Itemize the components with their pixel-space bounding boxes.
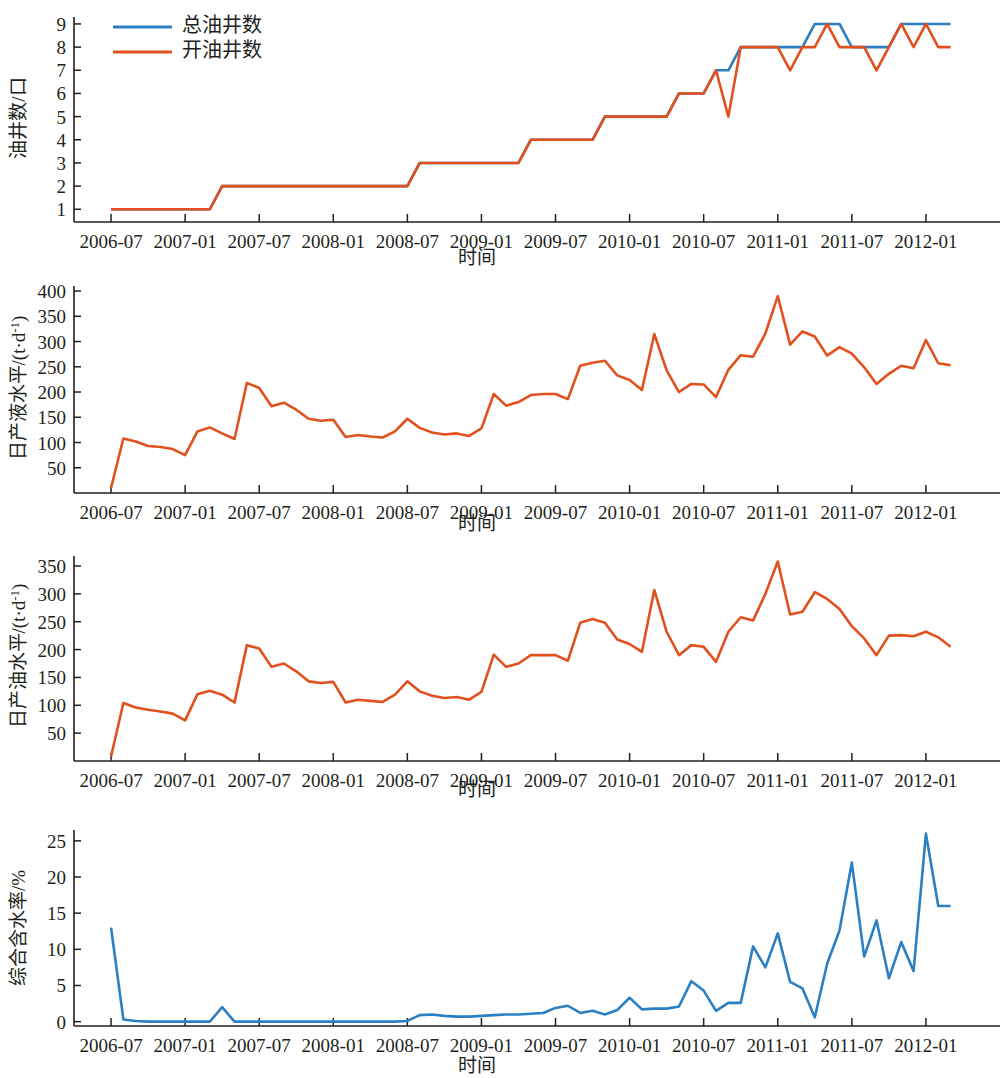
x-axis-title-daily-oil: 时间 xyxy=(458,779,496,800)
y-tick-label-daily-liquid-4: 250 xyxy=(38,357,67,378)
y-axis-title-daily-liquid: 日产液水平/(t·d-1) xyxy=(7,316,30,461)
x-tick-label-daily-liquid-1: 2007-01 xyxy=(153,502,216,523)
y-tick-label-daily-oil-3: 200 xyxy=(38,640,67,661)
y-tick-label-water-cut-2: 10 xyxy=(47,939,66,960)
y-tick-label-daily-liquid-2: 150 xyxy=(38,407,67,428)
panel-daily-oil: 501001502002503003502006-072007-012007-0… xyxy=(0,534,1008,800)
y-tick-label-water-cut-0: 0 xyxy=(57,1012,67,1033)
x-tick-label-daily-oil-6: 2009-07 xyxy=(524,770,587,791)
x-tick-label-daily-oil-10: 2011-07 xyxy=(821,770,884,791)
y-tick-label-daily-oil-4: 250 xyxy=(38,612,67,633)
panel-water-cut: 05101520252006-072007-012007-072008-0120… xyxy=(0,800,1008,1078)
x-tick-label-daily-liquid-7: 2010-01 xyxy=(598,502,661,523)
y-tick-label-daily-oil-6: 350 xyxy=(38,556,67,577)
x-tick-label-well-count-1: 2007-01 xyxy=(153,231,216,252)
x-tick-label-daily-oil-0: 2006-07 xyxy=(79,770,142,791)
x-tick-label-daily-oil-4: 2008-07 xyxy=(376,770,439,791)
y-tick-label-daily-liquid-1: 100 xyxy=(38,433,67,454)
x-tick-label-well-count-8: 2010-07 xyxy=(672,231,735,252)
y-tick-label-daily-oil-5: 300 xyxy=(38,584,67,605)
x-tick-label-water-cut-4: 2008-07 xyxy=(376,1035,439,1056)
x-tick-label-daily-oil-1: 2007-01 xyxy=(153,770,216,791)
x-tick-label-daily-liquid-8: 2010-07 xyxy=(672,502,735,523)
x-tick-label-well-count-11: 2012-01 xyxy=(894,231,957,252)
x-tick-label-daily-liquid-2: 2007-07 xyxy=(228,502,291,523)
x-tick-label-water-cut-8: 2010-07 xyxy=(672,1035,735,1056)
y-tick-label-daily-liquid-3: 200 xyxy=(38,382,67,403)
x-tick-label-water-cut-2: 2007-07 xyxy=(228,1035,291,1056)
x-tick-label-daily-oil-11: 2012-01 xyxy=(894,770,957,791)
x-axis-title-water-cut: 时间 xyxy=(458,1055,496,1076)
y-tick-label-water-cut-1: 5 xyxy=(57,975,67,996)
y-tick-label-well-count-4: 5 xyxy=(57,107,67,128)
chart-water-cut: 05101520252006-072007-012007-072008-0120… xyxy=(0,800,1008,1078)
x-tick-label-daily-oil-7: 2010-01 xyxy=(598,770,661,791)
chart-daily-liquid: 501001502002503003504002006-072007-01200… xyxy=(0,268,1008,534)
x-tick-label-daily-oil-9: 2011-01 xyxy=(746,770,809,791)
x-tick-label-water-cut-6: 2009-07 xyxy=(524,1035,587,1056)
x-tick-label-daily-liquid-3: 2008-01 xyxy=(302,502,365,523)
x-tick-label-well-count-9: 2011-01 xyxy=(746,231,809,252)
chart-daily-oil: 501001502002503003502006-072007-012007-0… xyxy=(0,534,1008,800)
x-tick-label-water-cut-7: 2010-01 xyxy=(598,1035,661,1056)
y-tick-label-well-count-1: 2 xyxy=(57,176,67,197)
x-tick-label-daily-liquid-6: 2009-07 xyxy=(524,502,587,523)
x-tick-label-daily-oil-3: 2008-01 xyxy=(302,770,365,791)
x-tick-label-water-cut-1: 2007-01 xyxy=(153,1035,216,1056)
y-tick-label-water-cut-5: 25 xyxy=(47,831,66,852)
x-tick-label-well-count-10: 2011-07 xyxy=(821,231,884,252)
y-tick-label-water-cut-3: 15 xyxy=(47,903,66,924)
x-tick-label-daily-liquid-4: 2008-07 xyxy=(376,502,439,523)
x-axis-title-well-count: 时间 xyxy=(458,247,496,268)
y-tick-label-daily-oil-2: 150 xyxy=(38,667,67,688)
y-tick-label-well-count-0: 1 xyxy=(57,199,67,220)
x-tick-label-well-count-7: 2010-01 xyxy=(598,231,661,252)
y-tick-label-daily-oil-1: 100 xyxy=(38,695,67,716)
y-axis-title-water-cut: 综合含水率/% xyxy=(8,870,29,986)
figure-oilfield-production-curves: 1234567892006-072007-012007-072008-01200… xyxy=(0,0,1008,1078)
x-tick-label-well-count-3: 2008-01 xyxy=(302,231,365,252)
y-axis-title-daily-oil: 日产油水平/(t·d-1) xyxy=(7,584,30,729)
legend: 总油井数开油井数 xyxy=(113,14,262,61)
panel-daily-liquid: 501001502002503003504002006-072007-01200… xyxy=(0,268,1008,534)
x-tick-label-water-cut-5: 2009-01 xyxy=(450,1035,513,1056)
y-tick-label-daily-liquid-7: 400 xyxy=(38,281,67,302)
x-tick-label-water-cut-9: 2011-01 xyxy=(746,1035,809,1056)
chart-well-count: 1234567892006-072007-012007-072008-01200… xyxy=(0,0,1008,268)
x-tick-label-well-count-2: 2007-07 xyxy=(228,231,291,252)
y-axis-title-well-count: 油井数/口 xyxy=(8,77,29,158)
y-tick-label-well-count-6: 7 xyxy=(57,60,67,81)
x-tick-label-water-cut-0: 2006-07 xyxy=(79,1035,142,1056)
x-tick-label-daily-liquid-9: 2011-01 xyxy=(746,502,809,523)
y-tick-label-water-cut-4: 20 xyxy=(47,867,66,888)
x-tick-label-well-count-0: 2006-07 xyxy=(79,231,142,252)
x-tick-label-daily-liquid-0: 2006-07 xyxy=(79,502,142,523)
legend-label-1: 开油井数 xyxy=(182,39,262,61)
y-tick-label-daily-liquid-5: 300 xyxy=(38,332,67,353)
y-tick-label-daily-oil-0: 50 xyxy=(47,723,66,744)
y-tick-label-well-count-7: 8 xyxy=(57,37,67,58)
series-line-water-cut-0 xyxy=(111,834,951,1022)
x-tick-label-daily-oil-8: 2010-07 xyxy=(672,770,735,791)
x-tick-label-water-cut-11: 2012-01 xyxy=(894,1035,957,1056)
legend-label-0: 总油井数 xyxy=(182,14,262,36)
y-tick-label-well-count-2: 3 xyxy=(57,153,67,174)
x-tick-label-daily-oil-2: 2007-07 xyxy=(228,770,291,791)
y-tick-label-well-count-3: 4 xyxy=(57,130,67,151)
x-tick-label-well-count-4: 2008-07 xyxy=(376,231,439,252)
x-tick-label-daily-liquid-10: 2011-07 xyxy=(821,502,884,523)
x-tick-label-water-cut-3: 2008-01 xyxy=(302,1035,365,1056)
y-tick-label-well-count-8: 9 xyxy=(57,14,67,35)
series-line-daily-oil-0 xyxy=(111,562,951,757)
y-tick-label-daily-liquid-0: 50 xyxy=(47,458,66,479)
x-tick-label-well-count-6: 2009-07 xyxy=(524,231,587,252)
x-tick-label-daily-liquid-11: 2012-01 xyxy=(894,502,957,523)
y-tick-label-well-count-5: 6 xyxy=(57,83,67,104)
x-tick-label-water-cut-10: 2011-07 xyxy=(821,1035,884,1056)
series-line-daily-liquid-0 xyxy=(111,296,951,488)
panel-well-count: 1234567892006-072007-012007-072008-01200… xyxy=(0,0,1008,268)
x-axis-title-daily-liquid: 时间 xyxy=(458,513,496,534)
y-tick-label-daily-liquid-6: 350 xyxy=(38,306,67,327)
